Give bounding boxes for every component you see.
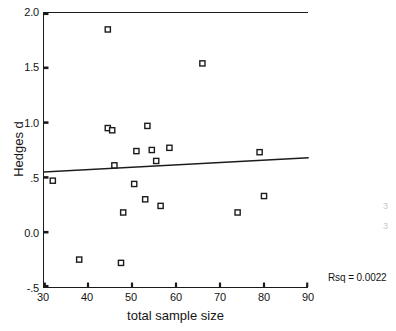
x-axis-ticks bbox=[45, 283, 307, 287]
y-axis-tick-label: 1.0 bbox=[24, 118, 39, 129]
y-axis-ticks bbox=[44, 14, 48, 286]
y-axis-tick-label: 1.5 bbox=[24, 62, 39, 73]
data-point bbox=[167, 145, 172, 150]
x-axis-tick-label: 50 bbox=[125, 292, 137, 303]
data-point bbox=[112, 163, 117, 168]
data-point bbox=[143, 197, 148, 202]
x-axis-tick-labels: 30 40 50 60 70 80 90 bbox=[0, 292, 396, 308]
x-axis-tick-label: 80 bbox=[258, 292, 270, 303]
data-point bbox=[121, 210, 126, 215]
data-point bbox=[77, 257, 82, 262]
scan-artifact-mark: 3 bbox=[383, 202, 388, 211]
y-axis-tick-label: .5 bbox=[30, 173, 39, 184]
data-point bbox=[235, 210, 240, 215]
rsq-annotation: Rsq = 0.0022 bbox=[328, 272, 387, 283]
data-point bbox=[118, 260, 123, 265]
data-point bbox=[105, 27, 110, 32]
data-point bbox=[134, 149, 139, 154]
x-axis-tick-label: 30 bbox=[37, 292, 49, 303]
data-point bbox=[149, 147, 154, 152]
plot-area bbox=[43, 12, 308, 288]
scatter-plot-figure: 2.0 1.5 1.0 .5 0.0 -.5 30 40 50 60 70 80… bbox=[0, 0, 396, 331]
plot-canvas bbox=[44, 13, 308, 287]
scan-artifact-mark: 3 bbox=[383, 222, 388, 231]
data-point bbox=[145, 123, 150, 128]
data-point bbox=[50, 178, 55, 183]
x-axis-tick-label: 70 bbox=[214, 292, 226, 303]
regression-line bbox=[44, 158, 308, 172]
x-axis-tick-label: 90 bbox=[302, 292, 314, 303]
y-axis-tick-label: 2.0 bbox=[24, 7, 39, 18]
data-point bbox=[257, 150, 262, 155]
data-point bbox=[110, 128, 115, 133]
data-point bbox=[158, 203, 163, 208]
data-point bbox=[200, 61, 205, 66]
x-axis-title: total sample size bbox=[43, 309, 308, 323]
data-point bbox=[154, 158, 159, 163]
x-axis-tick-label: 60 bbox=[170, 292, 182, 303]
y-axis-title: Hedges d bbox=[12, 94, 26, 204]
data-point bbox=[261, 193, 266, 198]
x-axis-tick-label: 40 bbox=[81, 292, 93, 303]
y-axis-tick-label: 0.0 bbox=[24, 228, 39, 239]
data-point-group bbox=[50, 27, 266, 266]
data-point bbox=[132, 181, 137, 186]
